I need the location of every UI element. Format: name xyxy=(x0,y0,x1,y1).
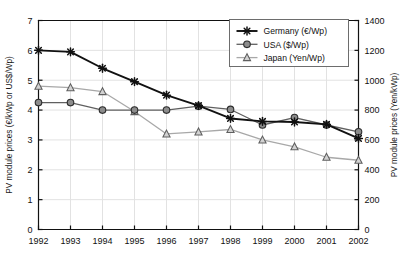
y2-tick-label: 0 xyxy=(365,225,370,235)
y2-tick-label: 400 xyxy=(365,165,380,175)
y2-tick-label: 200 xyxy=(365,195,380,205)
data-point-asterisk-marker xyxy=(195,102,203,110)
data-point-asterisk-marker xyxy=(35,46,43,54)
data-point-asterisk-marker xyxy=(99,64,107,72)
y-tick-label: 1 xyxy=(27,195,32,205)
y-tick-label: 7 xyxy=(27,16,32,26)
x-tick-label: 1992 xyxy=(28,236,48,246)
data-point-asterisk-marker xyxy=(291,118,299,126)
y2-tick-label: 1000 xyxy=(365,76,385,86)
x-tick-label: 1995 xyxy=(124,236,144,246)
y-axis-right-label: PV module prices (Yen/kWp) xyxy=(390,73,399,178)
data-point-asterisk-marker xyxy=(67,48,75,56)
legend-label: Germany (€/Wp) xyxy=(264,26,328,36)
x-tick-label: 2002 xyxy=(348,236,368,246)
data-point-asterisk-marker xyxy=(163,91,171,99)
data-point-asterisk-marker xyxy=(259,118,267,126)
x-tick-label: 1996 xyxy=(156,236,176,246)
legend-entry[interactable]: USA ($/Wp) xyxy=(237,40,310,50)
x-tick-label: 1999 xyxy=(252,236,272,246)
data-point-circle-marker xyxy=(163,107,170,114)
data-point-asterisk-marker xyxy=(227,115,235,123)
x-tick-label: 1993 xyxy=(60,236,80,246)
y2-tick-label: 1200 xyxy=(365,46,385,56)
data-point-circle-marker xyxy=(131,107,138,114)
data-point-asterisk-marker xyxy=(355,135,363,143)
x-tick-label: 1994 xyxy=(92,236,112,246)
data-point-circle-marker xyxy=(99,107,106,114)
x-tick-label: 1997 xyxy=(188,236,208,246)
y-tick-label: 6 xyxy=(27,46,32,56)
x-tick-label: 2001 xyxy=(316,236,336,246)
pv-module-prices-line-chart: 01234567 0200400600800100012001400 19921… xyxy=(0,0,405,264)
x-tick-label: 2000 xyxy=(284,236,304,246)
y-tick-label: 3 xyxy=(27,135,32,145)
y2-tick-label: 600 xyxy=(365,135,380,145)
chart-figure: 01234567 0200400600800100012001400 19921… xyxy=(0,0,405,264)
y-tick-label: 0 xyxy=(27,225,32,235)
y-tick-label: 4 xyxy=(27,105,32,115)
data-point-circle-marker xyxy=(244,41,251,48)
x-tick-label: 1998 xyxy=(220,236,240,246)
y-tick-label: 5 xyxy=(27,76,32,86)
data-point-asterisk-marker xyxy=(243,27,251,35)
chart-legend: Germany (€/Wp)USA ($/Wp)Japan (Yen/Wp) xyxy=(230,20,349,67)
data-point-asterisk-marker xyxy=(323,121,331,129)
y-axis-left-label: PV module prices (€/kWp or US$/Wp) xyxy=(5,56,14,194)
y2-tick-label: 800 xyxy=(365,105,380,115)
legend-label: USA ($/Wp) xyxy=(264,40,310,50)
data-point-circle-marker xyxy=(67,99,74,106)
y2-tick-label: 1400 xyxy=(365,16,385,26)
y-tick-label: 2 xyxy=(27,165,32,175)
data-point-circle-marker xyxy=(227,106,234,113)
data-point-circle-marker xyxy=(35,99,42,106)
data-point-asterisk-marker xyxy=(131,78,139,86)
legend-label: Japan (Yen/Wp) xyxy=(264,53,325,63)
